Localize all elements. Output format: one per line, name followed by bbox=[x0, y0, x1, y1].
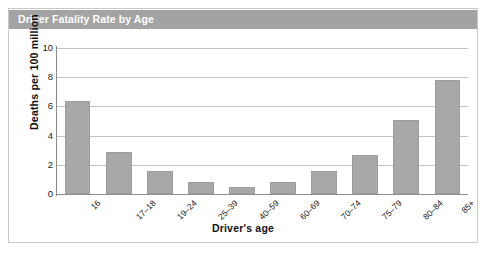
x-tick-label: 60–69 bbox=[298, 198, 322, 222]
bar bbox=[352, 155, 378, 194]
x-tick-label: 85+ bbox=[460, 198, 477, 215]
bar bbox=[65, 101, 91, 194]
bar bbox=[147, 171, 173, 194]
x-axis-title: Driver's age bbox=[9, 222, 477, 234]
x-tick-label: 40–59 bbox=[257, 198, 281, 222]
x-tick-label: 16 bbox=[88, 198, 102, 212]
y-tick-label: 6 bbox=[31, 100, 53, 111]
bar bbox=[229, 187, 255, 194]
x-tick-label: 19–24 bbox=[175, 198, 199, 222]
y-tick-label: 8 bbox=[31, 71, 53, 82]
y-tick-label: 4 bbox=[31, 130, 53, 141]
y-tick-label: 10 bbox=[31, 42, 53, 53]
y-axis-tick-labels: 0246810 bbox=[23, 48, 53, 194]
x-tick-label: 25–39 bbox=[216, 198, 240, 222]
bar bbox=[188, 182, 214, 194]
x-tick-label: 80–84 bbox=[421, 198, 445, 222]
bar bbox=[311, 171, 337, 194]
y-tick-label: 2 bbox=[31, 159, 53, 170]
bar-series bbox=[57, 48, 468, 194]
x-tick-label: 70–74 bbox=[339, 198, 363, 222]
x-tick-label: 75–79 bbox=[380, 198, 404, 222]
bar bbox=[435, 80, 461, 194]
x-tick-label: 17–18 bbox=[134, 198, 158, 222]
bar bbox=[393, 120, 419, 194]
bar bbox=[106, 152, 132, 194]
y-tick-label: 0 bbox=[31, 188, 53, 199]
chart-title-bar: Driver Fatality Rate by Age bbox=[9, 10, 477, 29]
bar bbox=[270, 182, 296, 194]
plot-area bbox=[57, 48, 468, 194]
chart-figure: Driver Fatality Rate by Age Deaths per 1… bbox=[8, 8, 478, 243]
